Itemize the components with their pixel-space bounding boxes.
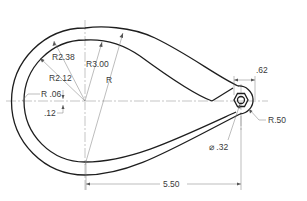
label-hex-62: .62 — [256, 65, 268, 75]
label-r-06: R .06 — [41, 89, 62, 99]
technical-drawing: R2.38 R2.12 R3.00 R R .06 .12 .62 R.50 ⌀… — [0, 0, 307, 201]
label-dia-32: ⌀ .32 — [209, 142, 228, 152]
label-r3-00: R3.00 — [86, 59, 109, 69]
hole-leader — [228, 104, 241, 140]
hex-width-dimension — [234, 76, 255, 100]
label-r: R — [106, 75, 112, 85]
label-offset-12: .12 — [44, 108, 56, 118]
label-r2-38: R2.38 — [52, 52, 75, 62]
label-5-50: 5.50 — [163, 179, 180, 189]
label-r-50: R.50 — [268, 115, 286, 125]
boss-radius-leader — [249, 109, 266, 120]
label-r2-12: R2.12 — [49, 73, 72, 83]
